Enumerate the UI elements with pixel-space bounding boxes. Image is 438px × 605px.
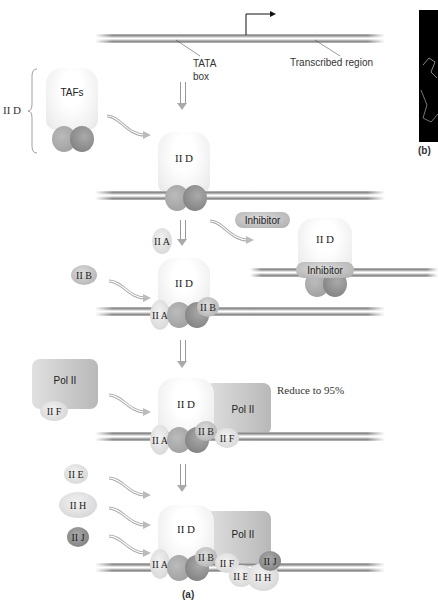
tfiij-bound: II J [259,551,281,571]
tfiid-bracket-icon [28,68,38,154]
curved-arrow-icon [107,533,152,561]
down-arrow-icon [180,82,186,104]
inhibitor-bound: Inhibitor [296,262,354,278]
tfiid-bracket-label: II D [3,104,21,116]
curved-arrow-icon [208,218,253,248]
down-arrow-icon [180,464,186,486]
dna-strand-4 [95,432,385,441]
panel-b-label: (b) [418,145,431,156]
tfiie-free: II E [64,464,88,484]
tbp-subunit [165,185,207,211]
transcribed-region-label: Transcribed region [290,57,373,68]
tfiih-free: II H [59,492,97,518]
tfiib-bound: II B [195,547,217,567]
tafs-label: TAFs [60,87,83,98]
down-arrow-icon [180,220,186,240]
dna-strand-2 [95,191,385,200]
curved-arrow-icon [107,392,152,420]
tafs-complex: TAFs [46,68,98,130]
dna-strand-3 [95,307,385,316]
curved-arrow-icon [107,278,152,306]
reduce-annotation: Reduce to 95% [277,384,344,396]
tfiib-free: II B [71,265,97,285]
tfiib-bound: II B [197,297,219,317]
curved-arrow-icon [107,505,152,533]
tfiib-bound: II B [195,421,217,441]
tfiia-free: II A [152,228,172,254]
pol-ii-free: Pol II [32,359,98,409]
curved-arrow-icon [107,475,152,503]
tfiif-free: II F [40,401,68,421]
tfiij-free: II J [67,527,89,547]
tata-box-label: TATA box [193,57,216,83]
transcription-initiation-diagram: (b) TATA box Transcribed region II D TAF… [0,0,438,605]
tfiif-bound: II F [215,428,239,448]
down-arrow-icon [180,340,186,362]
tbp-subunit [52,126,94,152]
panel-a-label: (a) [182,589,194,600]
curved-arrow-icon [105,113,150,141]
